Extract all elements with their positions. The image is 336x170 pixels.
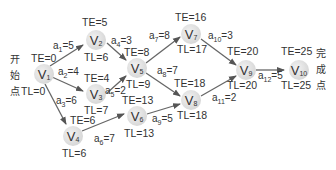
edge-label-a6: a6=7 [94,133,115,146]
v6-te: TE=13 [122,95,153,106]
edge-a2 [52,77,83,91]
start-char-2: 始 [10,68,22,84]
end-char-2: 成 [316,62,328,78]
v2-tl: TL=6 [84,52,108,63]
end-char-3: 点 [316,78,328,94]
v4-te: TE=6 [70,115,95,126]
node-v9: V9 [236,60,256,80]
node-v3: V3 [86,84,106,104]
node-v6: V6 [127,106,147,126]
node-v7: V7 [181,24,201,44]
activity-network-diagram: 开 始 点 完 成 点 V1 V2 V3 V4 V5 V6 V7 V8 V9 V… [0,0,336,170]
node-v1: V1 [34,64,54,84]
edge-label-a8: a8=7 [157,65,178,78]
edge-label-a7: a7=8 [149,30,170,43]
v10-te: TE=25 [281,46,312,57]
edge-label-a10: a10=3 [208,30,233,43]
v5-te: TE=8 [124,47,149,58]
v1-te: TE=0 [31,53,56,64]
edge-label-a5: a5=2 [105,85,126,98]
node-v10: V10 [289,60,309,80]
end-label: 完 成 点 [316,46,328,94]
v9-te: TE=20 [227,46,258,57]
edge-label-a4: a4=3 [111,35,132,48]
v6-tl: TL=13 [124,128,154,139]
v10-tl: TL=25 [281,80,311,91]
v1-tl: TL=0 [21,86,45,97]
edge-label-a12: a12=5 [258,70,283,83]
edge-label-a3: a3=6 [56,95,77,108]
edge-label-a11: a11=2 [212,92,236,105]
v9-tl: TL=20 [227,80,257,91]
start-char-1: 开 [10,52,22,68]
node-v2: V2 [86,30,106,50]
v7-te: TE=16 [175,12,206,23]
end-char-1: 完 [316,46,328,62]
v7-tl: TL=17 [177,44,207,55]
edge-label-a9: a9=5 [152,113,173,126]
v2-te: TE=5 [82,17,107,28]
edge-label-a1: a1=5 [53,40,74,53]
v8-te: TE=18 [174,78,205,89]
edge-label-a2: a2=4 [58,66,79,79]
v5-tl: TL=9 [126,79,150,90]
node-v4: V4 [63,126,83,146]
v8-tl: TL=18 [177,110,207,121]
v4-tl: TL=6 [62,148,86,159]
v3-te: TE=4 [84,73,109,84]
node-v5: V5 [127,58,147,78]
node-v8: V8 [181,90,201,110]
